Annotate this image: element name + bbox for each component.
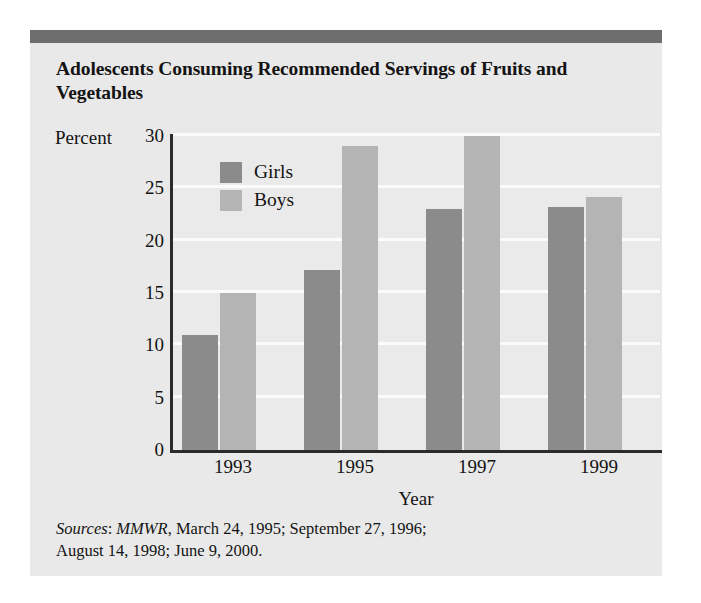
legend-swatch-icon-girls — [220, 162, 242, 183]
y-axis-tick-labels: 051015202530 — [118, 136, 164, 450]
sources-line1: , March 24, 1995; September 27, 1996; — [168, 519, 427, 538]
figure-card: Adolescents Consuming Recommended Servin… — [30, 30, 662, 576]
bar-boys-1999 — [586, 197, 622, 450]
legend-swatch-icon-boys — [220, 190, 242, 211]
y-tick-label: 15 — [124, 282, 164, 304]
legend-label-girls: Girls — [254, 161, 293, 183]
bar-chart: Percent 051015202530 1993199519971999 Ye… — [30, 30, 662, 576]
y-tick-label: 10 — [124, 334, 164, 356]
legend-label-boys: Boys — [254, 189, 294, 211]
y-tick-label: 5 — [124, 387, 164, 409]
bar-girls-1997 — [426, 209, 462, 450]
y-tick-label: 0 — [124, 439, 164, 461]
legend-item-girls: Girls — [220, 158, 370, 186]
sources-label: Sources — [56, 519, 108, 538]
x-axis-label: Year — [30, 488, 662, 510]
x-tick-label: 1999 — [580, 456, 618, 478]
sources-journal: MMWR — [116, 519, 167, 538]
bar-girls-1993 — [182, 335, 218, 450]
bar-girls-1995 — [304, 270, 340, 450]
gridline — [172, 133, 660, 136]
x-axis-line — [170, 450, 662, 453]
y-axis-line — [170, 134, 173, 452]
y-tick-label: 25 — [124, 177, 164, 199]
x-tick-label: 1997 — [458, 456, 496, 478]
bar-boys-1997 — [464, 136, 500, 450]
y-tick-label: 30 — [124, 125, 164, 147]
bar-girls-1999 — [548, 207, 584, 450]
x-tick-label: 1995 — [336, 456, 374, 478]
x-tick-label: 1993 — [214, 456, 252, 478]
bar-boys-1993 — [220, 293, 256, 450]
legend-item-boys: Boys — [220, 186, 370, 214]
sources-note: Sources: MMWR, March 24, 1995; September… — [56, 518, 636, 562]
chart-legend: Girls Boys — [220, 158, 370, 214]
y-tick-label: 20 — [124, 230, 164, 252]
y-axis-label: Percent — [55, 127, 112, 149]
sources-line2: August 14, 1998; June 9, 2000. — [56, 541, 262, 560]
